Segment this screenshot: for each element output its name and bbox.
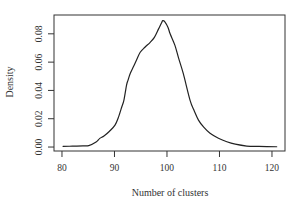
x-tick-label: 100 <box>160 163 175 173</box>
y-axis-label: Density <box>4 66 15 97</box>
x-tick-label: 90 <box>110 163 120 173</box>
x-tick-label: 80 <box>57 163 67 173</box>
x-tick-label: 110 <box>213 163 227 173</box>
x-axis-label: Number of clusters <box>132 187 209 198</box>
x-tick-label: 120 <box>265 163 280 173</box>
y-tick-label: 0.04 <box>34 82 44 99</box>
y-tick-label: 0.06 <box>34 54 44 71</box>
density-chart: 8090100110120 0.000.020.040.060.08 Numbe… <box>0 0 292 207</box>
y-tick-label: 0.00 <box>34 138 44 155</box>
y-tick-label: 0.02 <box>34 110 44 127</box>
y-tick-label: 0.08 <box>34 25 44 42</box>
